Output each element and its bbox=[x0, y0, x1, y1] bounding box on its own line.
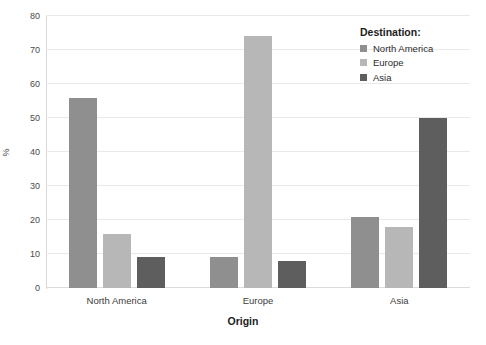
x-axis-tick-label: Europe bbox=[187, 296, 328, 306]
bar-chart: 01020304050607080 % North AmericaEuropeA… bbox=[0, 0, 486, 345]
x-axis-tick-label: Asia bbox=[329, 296, 470, 306]
y-axis-tick-label: 20 bbox=[14, 216, 40, 225]
legend-item: Europe bbox=[360, 58, 433, 68]
y-axis-title: % bbox=[2, 148, 11, 156]
legend-item: North America bbox=[360, 44, 433, 54]
bar bbox=[137, 257, 165, 288]
y-axis-tick-label: 80 bbox=[14, 12, 40, 21]
legend-title: Destination: bbox=[360, 27, 433, 38]
legend-item: Asia bbox=[360, 73, 433, 83]
bar bbox=[103, 234, 131, 288]
bar bbox=[385, 227, 413, 288]
y-axis-tick-label: 30 bbox=[14, 182, 40, 191]
bar-group bbox=[46, 16, 187, 288]
y-axis-tick-label: 10 bbox=[14, 250, 40, 259]
legend-item-list: North AmericaEuropeAsia bbox=[360, 44, 433, 83]
y-axis-tick-label: 0 bbox=[14, 284, 40, 293]
bar bbox=[210, 257, 238, 288]
y-axis-tick-label: 70 bbox=[14, 46, 40, 55]
legend-item-label: North America bbox=[373, 44, 433, 54]
legend-swatch-icon bbox=[360, 74, 367, 81]
y-axis-tick-label: 60 bbox=[14, 80, 40, 89]
legend-swatch-icon bbox=[360, 45, 367, 52]
bar-group bbox=[187, 16, 328, 288]
bar bbox=[278, 261, 306, 288]
bar bbox=[419, 118, 447, 288]
legend-item-label: Europe bbox=[373, 58, 404, 68]
x-axis-tick-label: North America bbox=[46, 296, 187, 306]
y-axis-tick-label: 50 bbox=[14, 114, 40, 123]
legend: Destination: North AmericaEuropeAsia bbox=[360, 27, 433, 87]
legend-item-label: Asia bbox=[373, 73, 391, 83]
legend-swatch-icon bbox=[360, 59, 367, 66]
bar bbox=[69, 98, 97, 288]
y-axis-tick-label: 40 bbox=[14, 148, 40, 157]
bar bbox=[244, 36, 272, 288]
x-axis-title: Origin bbox=[0, 316, 486, 327]
bar bbox=[351, 217, 379, 288]
